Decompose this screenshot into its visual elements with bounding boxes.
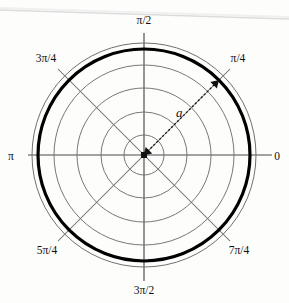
angle-label-3pi-over-4: 3π/4 bbox=[36, 52, 57, 64]
angle-label-5pi-over-4: 5π/4 bbox=[37, 244, 58, 256]
angle-label-pi: π bbox=[8, 150, 14, 162]
angle-label-0: 0 bbox=[274, 150, 280, 162]
angle-label-7pi-over-4: 7π/4 bbox=[229, 244, 250, 256]
polar-plot-figure: a π/2 π/4 3π/4 π 0 5π/4 7π/4 3π/2 bbox=[0, 0, 289, 303]
angle-label-pi-over-2: π/2 bbox=[137, 14, 152, 26]
radius-label-a: a bbox=[176, 105, 183, 120]
angle-label-pi-over-4: π/4 bbox=[231, 52, 246, 64]
polar-plot-canvas: a π/2 π/4 3π/4 π 0 5π/4 7π/4 3π/2 bbox=[0, 0, 289, 303]
angle-label-3pi-over-2: 3π/2 bbox=[134, 284, 155, 296]
pole-origin-marker bbox=[141, 152, 147, 158]
